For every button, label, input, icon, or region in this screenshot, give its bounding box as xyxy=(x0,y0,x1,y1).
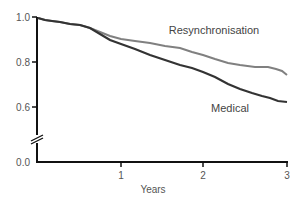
y-axis-break-icon xyxy=(31,135,43,144)
y-tick-0.8: 0.8 xyxy=(16,57,30,68)
y-tick-0.6: 0.6 xyxy=(16,102,30,113)
y-tick-1.0: 1.0 xyxy=(16,12,30,23)
x-axis-label: Years xyxy=(140,184,165,195)
x-tick-3: 3 xyxy=(284,170,290,181)
survival-chart: 1.0 0.8 0.6 0.0 1 2 3 Years Resynchronis… xyxy=(0,0,303,204)
x-tick-2: 2 xyxy=(200,170,206,181)
x-tick-1: 1 xyxy=(118,170,124,181)
label-medical: Medical xyxy=(211,102,249,114)
label-resynchronisation: Resynchronisation xyxy=(169,24,260,36)
y-tick-0.0: 0.0 xyxy=(16,157,30,168)
